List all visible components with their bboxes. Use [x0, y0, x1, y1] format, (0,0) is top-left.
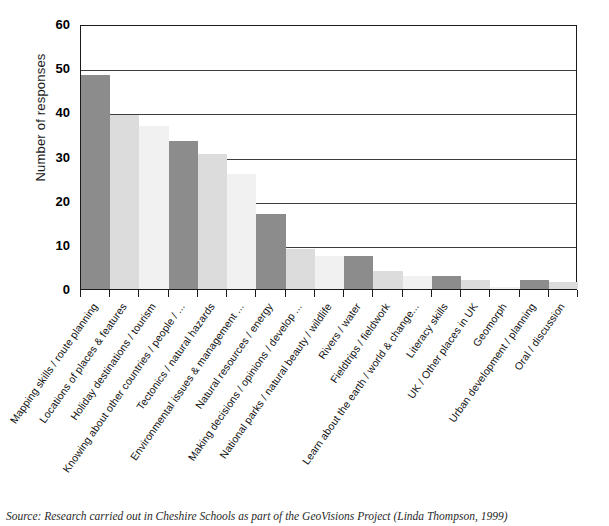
bar [520, 280, 549, 289]
y-tick-label: 40 [36, 106, 70, 119]
bar [227, 174, 256, 289]
bar [432, 276, 461, 289]
y-tick-label: 20 [36, 195, 70, 208]
y-tick-label: 50 [36, 62, 70, 75]
y-tick-label: 60 [36, 18, 70, 31]
bar [110, 115, 139, 289]
bar [403, 276, 432, 289]
bar-chart-figure: Number of responses 0102030405060 Mappin… [0, 0, 609, 526]
bar [286, 249, 315, 289]
bar [344, 256, 373, 289]
plot-area [80, 25, 577, 290]
bar [139, 126, 168, 289]
source-caption: Source: Research carried out in Cheshire… [6, 510, 507, 522]
bar [549, 282, 578, 289]
bar [169, 141, 198, 289]
y-tick-label: 30 [36, 151, 70, 164]
bars-container [81, 26, 576, 289]
bar [81, 75, 110, 289]
x-axis-category-labels: Mapping skills / route planningLocations… [0, 290, 609, 490]
bar [198, 154, 227, 289]
bar [315, 256, 344, 289]
bar [256, 214, 285, 289]
bar [461, 280, 490, 289]
bar [490, 287, 519, 289]
bar [373, 271, 402, 289]
y-tick-label: 10 [36, 239, 70, 252]
